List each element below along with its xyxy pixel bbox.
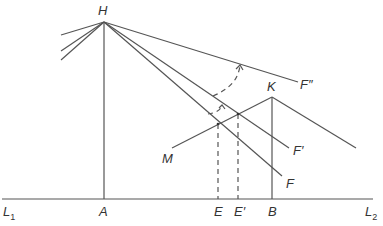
geometry-diagram [0, 0, 383, 226]
line-h-f [104, 22, 282, 176]
line-h-f-prime [104, 22, 289, 148]
label-l1: L1 [3, 205, 15, 222]
label-e-prime: E′ [234, 205, 245, 218]
fan-line-3 [61, 22, 104, 60]
label-l2: L2 [365, 205, 377, 222]
label-k: K [267, 80, 276, 93]
label-f: F [286, 177, 294, 190]
label-f-prime: F′ [293, 144, 303, 157]
dashed-arc-upper [213, 66, 240, 96]
label-f-double-prime: F″ [300, 78, 313, 91]
point-e-intersection [217, 123, 220, 126]
label-a: A [99, 205, 108, 218]
label-m: M [162, 152, 173, 165]
line-h-f-double-prime [104, 22, 298, 82]
fan-line-2 [61, 22, 104, 51]
label-l1-sub: 1 [10, 212, 15, 222]
label-e: E [214, 205, 223, 218]
point-e-prime-intersection [237, 113, 240, 116]
label-h: H [98, 4, 107, 17]
label-b: B [268, 205, 277, 218]
line-k-right [272, 97, 356, 148]
label-l2-sub: 2 [372, 212, 377, 222]
